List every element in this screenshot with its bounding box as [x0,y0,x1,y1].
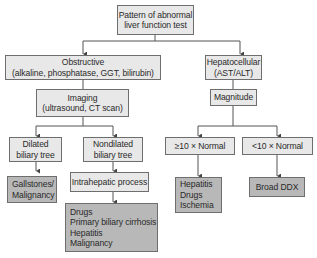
connectors [0,0,317,258]
node-magnitude: Magnitude [210,89,257,106]
edge-magnitude-split [198,106,277,126]
node-root-line: Pattern of abnormal [119,10,193,21]
node-intrahepatic-causes-line: Hepatitis [70,228,103,239]
node-nondilated: Nondilated biliary tree [83,137,143,162]
node-imaging-line: (ultrasound, CT scan) [42,103,122,114]
edge-root-split [83,35,240,41]
node-broad: Broad DDX [249,177,305,197]
node-lt10-line: <10 × Normal [252,141,303,152]
node-obstructive-line: Obstructive [62,57,104,68]
node-root-line: liver function test [124,20,187,31]
node-intrahepatic-causes-line: Malignancy [70,238,112,249]
node-gallstones-line: Gallstones/ [12,179,54,190]
node-intrahepatic-causes-line: Drugs [70,207,92,218]
node-hepatocellular: Hepatocellular (AST/ALT) [205,55,262,80]
node-dilated: Dilated biliary tree [9,137,62,162]
node-lt10: <10 × Normal [242,137,313,155]
node-imaging: Imaging (ultrasound, CT scan) [36,89,129,117]
node-magnitude-line: Magnitude [214,92,253,103]
node-nondilated-line: biliary tree [94,150,132,161]
node-ge10-causes-line: Ischemia [180,200,214,211]
node-broad-line: Broad DDX [256,182,299,193]
node-ge10: ≥10 × Normal [165,137,235,155]
node-ge10-causes-line: Drugs [180,190,202,201]
node-dilated-line: Dilated [22,139,48,150]
node-obstructive: Obstructive (alkaline, phosphatase, GGT,… [5,55,161,80]
node-hepatocellular-line: (AST/ALT) [214,68,253,79]
node-ge10-line: ≥10 × Normal [175,141,226,152]
node-intrahepatic-causes: Drugs Primary biliary cirrhosis Hepatiti… [65,203,158,252]
node-dilated-line: biliary tree [16,150,54,161]
node-hepatocellular-line: Hepatocellular [207,57,261,68]
node-intrahepatic: Intrahepatic process [70,172,149,192]
node-ge10-causes-line: Hepatitis [180,179,213,190]
node-obstructive-line: (alkaline, phosphatase, GGT, bilirubin) [12,68,154,79]
node-gallstones: Gallstones/ Malignancy [7,176,57,203]
node-intrahepatic-line: Intrahepatic process [72,177,147,188]
edge-imaging-split [36,117,113,126]
node-nondilated-line: Nondilated [93,139,133,150]
node-gallstones-line: Malignancy [12,190,54,201]
node-intrahepatic-causes-line: Primary biliary cirrhosis [70,217,156,228]
node-imaging-line: Imaging [68,93,98,104]
node-root: Pattern of abnormal liver function test [117,5,194,35]
node-ge10-causes: Hepatitis Drugs Ischemia [175,177,222,213]
